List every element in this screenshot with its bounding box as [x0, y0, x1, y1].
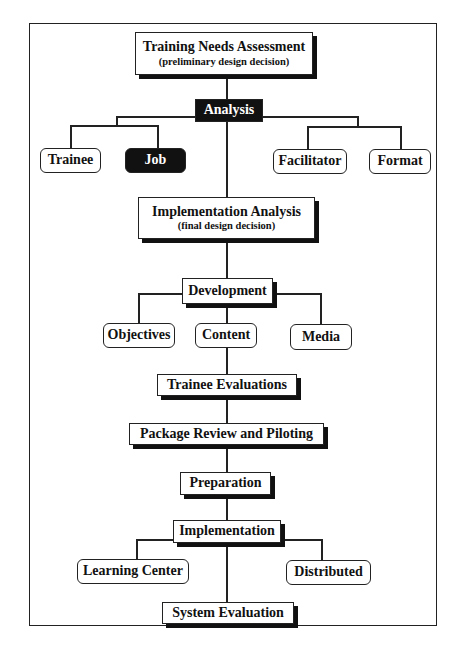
connector [226, 495, 228, 520]
node-facilitator: Facilitator [273, 149, 347, 174]
node-subtitle: (final design decision) [178, 220, 275, 232]
connector [226, 122, 228, 197]
node-label: Distributed [294, 564, 362, 580]
node-label: Implementation [179, 523, 275, 539]
node-subtitle: (preliminary design decision) [159, 56, 289, 68]
node-implementation: Implementation [173, 520, 281, 543]
node-learning-center: Learning Center [77, 559, 189, 584]
node-implementation-analysis: Implementation Analysis (final design de… [138, 197, 315, 239]
connector [357, 116, 359, 126]
connector [400, 126, 402, 149]
connector [321, 539, 323, 560]
node-label: Content [202, 327, 250, 343]
node-content: Content [195, 323, 257, 348]
node-title: Training Needs Assessment [143, 39, 305, 55]
connector [157, 125, 159, 148]
node-label: Trainee [48, 152, 94, 168]
node-development: Development [182, 278, 273, 304]
node-media: Media [290, 324, 352, 350]
node-label: Learning Center [83, 563, 183, 579]
connector [226, 543, 228, 602]
node-analysis: Analysis [195, 99, 263, 122]
connector [70, 125, 72, 148]
node-objectives: Objectives [103, 323, 175, 348]
connector [226, 75, 228, 99]
connector [226, 396, 228, 423]
node-label: System Evaluation [172, 605, 284, 621]
node-job: Job [125, 148, 186, 173]
node-label: Development [188, 283, 267, 299]
node-label: Format [377, 153, 422, 169]
node-label: Facilitator [279, 153, 342, 169]
node-package-review: Package Review and Piloting [129, 423, 324, 445]
node-preparation: Preparation [180, 472, 271, 495]
node-format: Format [369, 149, 431, 174]
connector [307, 126, 401, 128]
node-label: Objectives [108, 327, 171, 343]
node-system-evaluation: System Evaluation [162, 602, 294, 624]
connector [307, 126, 309, 149]
node-trainee-evaluations: Trainee Evaluations [157, 374, 297, 396]
connector [136, 539, 138, 559]
connector [226, 239, 228, 278]
node-label: Preparation [189, 475, 261, 491]
connector [70, 125, 158, 127]
node-label: Trainee Evaluations [167, 377, 287, 393]
node-training-needs-assessment: Training Needs Assessment (preliminary d… [135, 32, 313, 75]
connector [138, 293, 140, 323]
node-label: Package Review and Piloting [140, 426, 313, 442]
node-label: Media [302, 329, 340, 345]
connector [320, 293, 322, 324]
connector [226, 445, 228, 472]
node-title: Implementation Analysis [152, 204, 301, 220]
node-label: Analysis [204, 102, 255, 118]
node-label: Job [145, 152, 167, 168]
node-distributed: Distributed [286, 560, 371, 585]
node-trainee: Trainee [40, 148, 101, 173]
